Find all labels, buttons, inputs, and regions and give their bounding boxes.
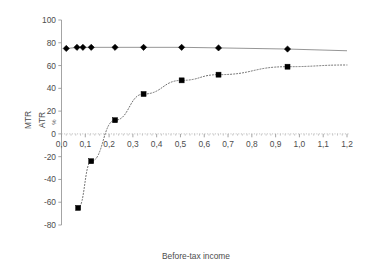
x-tick-label-0: 0,0 xyxy=(56,139,68,149)
chart-plot-area: 100806040200-20-40-60-800,00,10,20,30,40… xyxy=(0,0,366,271)
x-tick-label-4: 0,4 xyxy=(151,139,163,149)
marker-mtr-0 xyxy=(63,45,69,51)
x-tick-label-10: 1,0 xyxy=(294,139,306,149)
x-tick-label-11: 1,1 xyxy=(317,139,329,149)
x-tick-label-12: 1,2 xyxy=(341,139,353,149)
marker-mtr-4 xyxy=(112,44,118,50)
x-axis-title: Before-tax income xyxy=(162,251,230,261)
y-tick-label-0: 100 xyxy=(42,15,56,25)
marker-mtr-2 xyxy=(80,44,86,50)
x-tick-label-7: 0,7 xyxy=(222,139,234,149)
series-line-mtr xyxy=(66,47,347,50)
x-tick-label-3: 0,3 xyxy=(127,139,139,149)
y-tick-label-7: -40 xyxy=(44,174,56,184)
series-line-atr xyxy=(78,65,347,208)
x-tick-label-6: 0,6 xyxy=(198,139,210,149)
marker-atr-6 xyxy=(285,64,290,69)
marker-mtr-5 xyxy=(140,44,146,50)
y-axis-unit-label: % xyxy=(51,119,57,125)
y-axis-title-atr: ATR xyxy=(37,112,47,128)
marker-atr-0 xyxy=(76,205,81,210)
x-tick-label-8: 0,8 xyxy=(246,139,258,149)
y-axis-title-mtr: MTR xyxy=(23,111,33,129)
marker-mtr-1 xyxy=(74,44,80,50)
y-tick-label-5: 0 xyxy=(51,129,56,139)
marker-mtr-6 xyxy=(179,44,185,50)
y-tick-label-8: -60 xyxy=(44,197,56,207)
x-tick-label-9: 0,9 xyxy=(270,139,282,149)
marker-atr-4 xyxy=(179,78,184,83)
y-tick-label-3: 40 xyxy=(47,83,57,93)
marker-atr-5 xyxy=(216,72,221,77)
marker-atr-2 xyxy=(113,118,118,123)
marker-mtr-8 xyxy=(284,46,290,52)
marker-mtr-3 xyxy=(88,44,94,50)
marker-atr-3 xyxy=(141,92,146,97)
y-tick-label-4: 20 xyxy=(47,106,57,116)
chart-figure: 100806040200-20-40-60-800,00,10,20,30,40… xyxy=(0,0,366,271)
x-tick-label-1: 0,1 xyxy=(79,139,91,149)
y-tick-label-1: 80 xyxy=(47,38,57,48)
marker-atr-1 xyxy=(89,159,94,164)
x-tick-label-5: 0,5 xyxy=(175,139,187,149)
y-tick-label-9: -80 xyxy=(44,220,56,230)
y-tick-label-6: -20 xyxy=(44,152,56,162)
x-tick-label-2: 0,2 xyxy=(103,139,115,149)
y-tick-label-2: 60 xyxy=(47,61,57,71)
marker-mtr-7 xyxy=(215,45,221,51)
